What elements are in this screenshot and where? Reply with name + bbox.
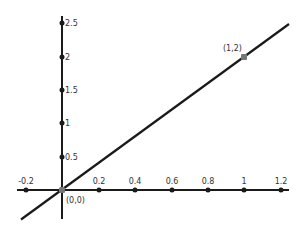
y-tick-dot <box>60 88 65 93</box>
y-tick-dot <box>60 155 65 160</box>
y-tick-dot <box>60 55 65 60</box>
x-tick-label: 0.2 <box>93 177 106 186</box>
x-tick-dot <box>242 188 247 193</box>
x-tick-dot <box>133 188 138 193</box>
y-tick-label: 1.5 <box>65 86 78 95</box>
point-label: (1,2) <box>223 44 242 53</box>
y-tick-label: 2.5 <box>65 19 78 28</box>
y-tick-labels: 0.5 1 1.5 2 2.5 <box>65 19 78 162</box>
y-tick-dot <box>60 21 65 26</box>
x-tick-label: 0.4 <box>129 177 142 186</box>
y-tick-label: 1 <box>65 119 70 128</box>
line-chart: -0.2 0.2 0.4 0.6 0.8 1 1.2 0.5 1 1.5 2 2… <box>0 0 301 236</box>
point-1-2 <box>241 54 247 60</box>
x-tick-dot <box>279 188 284 193</box>
x-tick-dot <box>170 188 175 193</box>
origin-point <box>59 187 65 193</box>
y-tick-label: 0.5 <box>65 153 78 162</box>
x-tick-dot <box>24 188 29 193</box>
x-tick-label: 0.6 <box>166 177 179 186</box>
x-tick-label: 0.8 <box>202 177 215 186</box>
x-tick-dot <box>206 188 211 193</box>
origin-label: (0,0) <box>66 196 85 205</box>
x-tick-label: 1 <box>241 177 246 186</box>
x-tick-dot <box>97 188 102 193</box>
y-tick-label: 2 <box>65 53 70 62</box>
y-tick-dot <box>60 121 65 126</box>
x-tick-labels: -0.2 0.2 0.4 0.6 0.8 1 1.2 <box>18 177 287 186</box>
x-tick-label: -0.2 <box>18 177 34 186</box>
x-tick-label: 1.2 <box>275 177 288 186</box>
